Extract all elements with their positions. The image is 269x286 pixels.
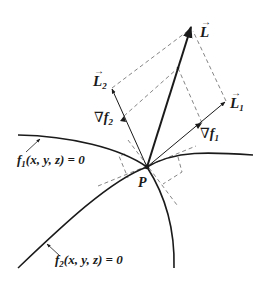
label-L1: → L1: [230, 96, 244, 113]
diagram-canvas: [0, 0, 269, 286]
label-f2-equation: f2(x, y, z) = 0: [55, 253, 123, 269]
point-P-dot: [145, 165, 150, 170]
label-point-P: P: [138, 176, 147, 190]
vector-arrow-icon: →: [201, 17, 211, 27]
vector-arrow-icon: →: [94, 66, 104, 76]
vector-L-arrow: [147, 27, 191, 167]
label-f1-equation: f1(x, y, z) = 0: [17, 153, 85, 169]
midpoint-dot: [177, 67, 180, 70]
nabla-symbol: ∇: [94, 110, 104, 125]
nabla-symbol: ∇: [200, 126, 210, 141]
vector-arrow-icon: →: [231, 88, 241, 98]
label-L: → L: [200, 25, 209, 40]
label-L2: → L2: [93, 74, 107, 91]
f1-leader-line: [26, 139, 40, 152]
label-grad-f2: ∇f2: [94, 111, 113, 127]
label-grad-f1: ∇f1: [200, 127, 219, 143]
